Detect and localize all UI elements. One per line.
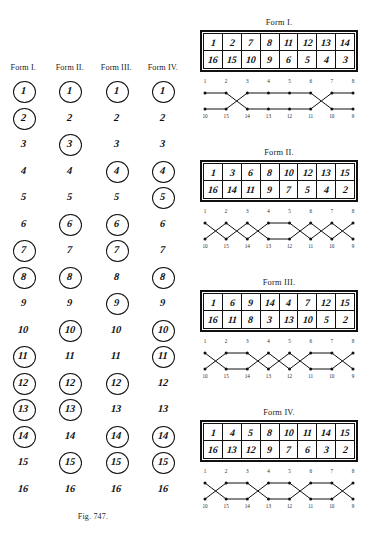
form-table-cell: 3 <box>223 164 242 181</box>
form-table-cell: 16 <box>204 181 223 198</box>
form-table-inner: 12781112131416151096543 <box>203 33 355 69</box>
number-cell: 9 <box>57 290 83 317</box>
form-table-cell: 16 <box>204 311 223 328</box>
number-cell: 8 <box>103 264 129 291</box>
lattice-top-label: 3 <box>238 208 256 214</box>
number-label: 12 <box>157 378 168 389</box>
form-table-cell-value: 7 <box>286 184 292 195</box>
number-label: 1 <box>160 86 166 97</box>
number-label: 6 <box>113 219 119 230</box>
form-table-cell-value: 13 <box>227 444 237 455</box>
form-table-cell: 8 <box>242 311 261 328</box>
form-block-2: Form II.13681012131516141197542123456781… <box>186 148 372 252</box>
lattice-top-label: 5 <box>281 78 299 84</box>
lattice-top-label: 7 <box>323 78 341 84</box>
lattice-bottom-label: 14 <box>238 243 256 249</box>
form-table-cell-value: 6 <box>286 54 292 65</box>
form-title: Form I. <box>186 18 372 30</box>
form-table-cell: 7 <box>298 294 317 311</box>
lattice-top-label: 7 <box>323 208 341 214</box>
figure-747-column-header-3: Form III. <box>93 63 140 72</box>
number-cell: 9 <box>150 290 176 317</box>
lattice-bottom-label: 13 <box>259 373 277 379</box>
number-cell: 5 <box>103 184 129 211</box>
number-label: 4 <box>67 166 73 177</box>
form-table-cell: 7 <box>242 34 261 51</box>
form-block-3: Form III.1691447121516118313105212345678… <box>186 278 372 382</box>
form-table-cell: 7 <box>280 441 299 458</box>
lattice-top-label: 1 <box>196 338 214 344</box>
number-label: 5 <box>113 192 119 203</box>
form-table-cell: 4 <box>280 294 299 311</box>
number-column-1: 12345678910111213141516 <box>0 78 47 502</box>
number-cell: 14 <box>57 423 83 450</box>
form-table-cell-value: 10 <box>302 314 312 325</box>
form-table-cell: 12 <box>317 294 336 311</box>
number-cell: 8 <box>150 264 176 291</box>
form-table-cell-value: 5 <box>304 54 310 65</box>
form-table-cell: 3 <box>261 311 280 328</box>
number-label: 15 <box>18 457 29 468</box>
number-label: 13 <box>64 404 75 415</box>
number-label: 10 <box>18 325 29 336</box>
number-cell: 2 <box>57 105 83 132</box>
lattice-top-label: 6 <box>302 78 320 84</box>
lattice-top-label: 3 <box>238 468 256 474</box>
lattice-bottom-label: 11 <box>302 243 320 249</box>
number-cell: 7 <box>10 237 36 264</box>
form-table-cell: 6 <box>280 51 299 68</box>
lattice-bottom-label: 13 <box>259 243 277 249</box>
number-label: 9 <box>67 298 73 309</box>
form-table-cell-value: 3 <box>229 167 235 178</box>
number-label: 15 <box>157 457 168 468</box>
number-label: 16 <box>64 484 75 495</box>
number-label: 12 <box>111 378 122 389</box>
form-table-cell: 15 <box>223 51 242 68</box>
lattice-top-label: 5 <box>281 468 299 474</box>
lattice-top-label: 5 <box>281 338 299 344</box>
form-table-cell: 1 <box>204 34 223 51</box>
lattice-top-label: 1 <box>196 468 214 474</box>
number-label: 6 <box>67 219 73 230</box>
lattice-diagram: 12345678101514131211109 <box>195 206 363 252</box>
form-table-cell-value: 13 <box>283 314 293 325</box>
lattice-bottom-label: 15 <box>217 373 235 379</box>
form-table-cell-value: 10 <box>246 54 256 65</box>
form-table-cell: 10 <box>280 164 299 181</box>
form-table-cell: 12 <box>242 441 261 458</box>
lattice-top-label: 4 <box>259 208 277 214</box>
number-cell: 12 <box>57 370 83 397</box>
form-table-cell-value: 4 <box>286 297 292 308</box>
form-table-cell: 6 <box>223 294 242 311</box>
form-title: Form III. <box>186 278 372 290</box>
figure-747-column-header-4: Form IV. <box>140 63 187 72</box>
number-label: 1 <box>20 86 26 97</box>
form-table-row-bottom: 161183131052 <box>204 311 354 328</box>
form-table-cell: 2 <box>336 441 354 458</box>
figure-747: Form I.Form II.Form III.Form IV. 1234567… <box>0 0 186 554</box>
number-label: 9 <box>20 298 26 309</box>
form-table-inner: 13681012131516141197542 <box>203 163 355 199</box>
lattice-bottom-label: 14 <box>238 503 256 509</box>
figure-747-column-headers: Form I.Form II.Form III.Form IV. <box>0 63 186 72</box>
form-table-cell-value: 12 <box>246 444 256 455</box>
form-table-cell: 5 <box>298 181 317 198</box>
number-label: 13 <box>18 404 29 415</box>
number-label: 16 <box>157 484 168 495</box>
number-cell: 5 <box>57 184 83 211</box>
form-table-cell-value: 14 <box>340 37 350 48</box>
number-cell: 8 <box>10 264 36 291</box>
form-table-cell: 13 <box>223 441 242 458</box>
form-table-cell: 13 <box>317 164 336 181</box>
form-table-cell-value: 15 <box>340 297 350 308</box>
form-table: 16914471215161183131052 <box>200 290 358 332</box>
form-table-cell-value: 13 <box>321 37 331 48</box>
lattice-top-label: 1 <box>196 78 214 84</box>
form-table-cell: 12 <box>298 164 317 181</box>
lattice-bottom-label: 12 <box>281 503 299 509</box>
number-cell: 6 <box>57 211 83 238</box>
number-cell: 13 <box>103 396 129 423</box>
lattice-top-label: 4 <box>259 338 277 344</box>
number-cell: 5 <box>10 184 36 211</box>
number-label: 7 <box>113 245 119 256</box>
